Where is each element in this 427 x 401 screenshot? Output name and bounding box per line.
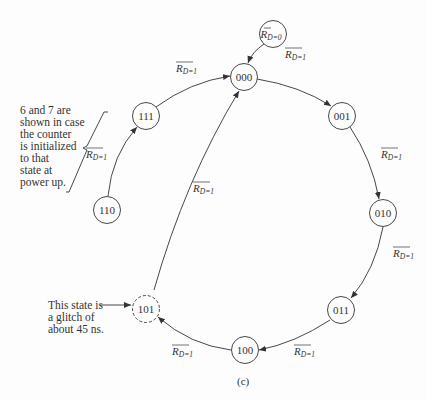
edge-010-011: [351, 227, 383, 298]
note-line: to that: [20, 152, 85, 164]
power-up-note: 6 and 7 are shown in case the counter is…: [20, 104, 85, 188]
state-node-s001: 001: [329, 103, 356, 130]
diagram-svg: 000001010011100101110111RD=0 RD=1RD=1RD=…: [0, 0, 427, 401]
figure-caption: (c): [237, 375, 249, 387]
note-line: is initialized: [20, 140, 85, 152]
state-label: 011: [333, 304, 349, 316]
state-node-s110: 110: [94, 197, 121, 224]
edge-100-101: [158, 317, 231, 350]
state-label: 001: [334, 110, 351, 122]
svg-text:RD=1: RD=1: [380, 148, 402, 162]
edge-label-s010-s011: RD=1: [392, 247, 414, 261]
state-node-s000: 000: [231, 64, 258, 91]
edge-label-s110-s111: RD=1: [85, 148, 107, 162]
state-label: 100: [237, 344, 254, 356]
state-node-reset: RD=0: [260, 21, 287, 48]
svg-text:RD=1: RD=1: [175, 62, 197, 76]
edge-label-s111-s000: RD=1: [175, 62, 197, 76]
edge-label-s001-s010: RD=1: [380, 148, 402, 162]
note-line: a glitch of: [48, 311, 104, 323]
edge-000-001: [257, 79, 331, 106]
state-node-s111: 111: [133, 103, 160, 130]
state-label: 010: [375, 207, 392, 219]
edge-label-s101-s000: RD=1: [192, 182, 214, 196]
note-line: state at: [20, 164, 85, 176]
edge-label-s000-s001: RD=1: [284, 48, 306, 62]
svg-text:RD=1: RD=1: [85, 148, 107, 162]
edge-001-010: [350, 127, 379, 199]
state-label: 000: [236, 71, 253, 83]
state-node-s011: 011: [328, 297, 355, 324]
svg-text:RD=1: RD=1: [392, 247, 414, 261]
note-line: This state is: [48, 299, 104, 311]
edge-reset-000: [248, 44, 264, 63]
note-line: the counter: [20, 128, 85, 140]
note-line: 6 and 7 are: [20, 104, 85, 116]
note-line: power up.: [20, 176, 85, 188]
state-node-s101: 101: [133, 296, 160, 323]
states-group: 000001010011100101110111RD=0: [94, 21, 397, 364]
state-diagram-canvas: 000001010011100101110111RD=0 RD=1RD=1RD=…: [0, 0, 427, 401]
note-line: shown in case: [20, 116, 85, 128]
svg-text:RD=1: RD=1: [192, 182, 214, 196]
edge-label-s011-s100: RD=1: [293, 345, 315, 359]
state-label: 101: [138, 303, 155, 315]
note-line: about 45 ns.: [48, 323, 104, 335]
svg-text:RD=1: RD=1: [284, 48, 306, 62]
state-label: 110: [99, 204, 116, 216]
state-label: 111: [138, 110, 154, 122]
svg-text:RD=1: RD=1: [293, 345, 315, 359]
glitch-note: This state is a glitch of about 45 ns.: [48, 299, 104, 335]
state-node-s100: 100: [232, 337, 259, 364]
svg-text:RD=1: RD=1: [171, 345, 193, 359]
edge-111-000: [156, 76, 230, 107]
edge-110-111: [108, 127, 137, 196]
state-node-s010: 010: [370, 200, 397, 227]
edge-label-s100-s101: RD=1: [171, 345, 193, 359]
